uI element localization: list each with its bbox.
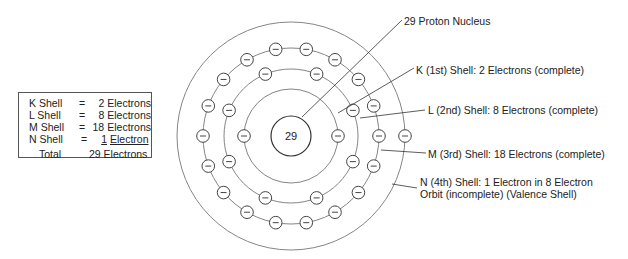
l-shell-label: L (2nd) Shell: 8 Electrons (complete)	[428, 104, 598, 116]
k-shell-label: K (1st) Shell: 2 Electrons (complete)	[416, 64, 584, 76]
n-shell-label: N (4th) Shell: 1 Electron in 8 ElectronO…	[420, 176, 593, 200]
legend-row: K Shell=2Electrons	[29, 97, 151, 109]
electron-count-legend: K Shell=2Electrons L Shell=8Electrons M …	[18, 92, 152, 158]
legend-row: M Shell=18Electrons	[29, 121, 151, 133]
legend-total: Total29 Electrons	[29, 148, 151, 160]
n-pointer	[392, 184, 417, 188]
nucleus-label-text: 29 Proton Nucleus	[404, 15, 490, 27]
legend-row: L Shell=8Electrons	[29, 109, 151, 121]
m-shell-label: M (3rd) Shell: 18 Electrons (complete)	[428, 148, 605, 160]
legend-row: N Shell=1Electron	[29, 133, 151, 145]
nucleus-label: 29	[285, 130, 297, 142]
